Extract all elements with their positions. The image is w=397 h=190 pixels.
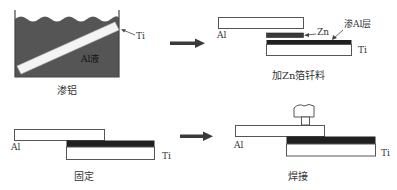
zn-pointer-arrowhead (304, 33, 309, 37)
ti-plate (67, 147, 155, 160)
al-plate (219, 18, 304, 29)
al-plate-label: Al (217, 31, 226, 40)
ti-plate (287, 144, 376, 156)
ti-plate-label: Ti (358, 46, 367, 55)
welding-panel (236, 105, 376, 157)
ti-plate (267, 45, 352, 56)
fixing-caption: 固定 (74, 172, 94, 182)
al-liquid-label: Al液 (81, 55, 99, 64)
al-plate (15, 130, 105, 141)
aluminizing-caption: 渗铝 (57, 86, 77, 96)
zn-foil (267, 33, 304, 38)
ti-plate-label: Ti (162, 152, 171, 161)
welding-tool-shank (302, 117, 310, 125)
aluminizing-panel (15, 10, 135, 77)
coating-and-foil-layer (287, 137, 376, 145)
ti-strip-label: Ti (136, 32, 145, 41)
al-plate-label: Al (234, 141, 243, 150)
fixing-panel (15, 130, 155, 160)
coating-layer-label: 渗Al层 (344, 20, 371, 29)
add-zn-foil-panel (219, 18, 352, 56)
add-zn-foil-caption: 加Zn箔钎料 (272, 71, 325, 81)
welding-tool-head (294, 105, 314, 118)
coating-and-foil-layer (67, 141, 155, 148)
al-plate (236, 126, 325, 137)
zn-foil-label: Zn (317, 28, 329, 37)
flow-arrow-1 (170, 39, 205, 49)
welding-caption: 焊接 (288, 172, 308, 182)
al-coating-layer (267, 40, 352, 45)
al-plate-label: Al (11, 143, 20, 152)
flow-arrow-2 (180, 132, 213, 142)
ti-plate-label: Ti (381, 149, 390, 158)
